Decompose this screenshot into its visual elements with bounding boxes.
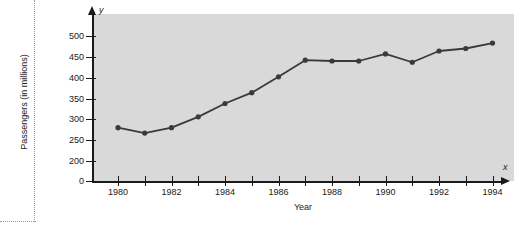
x-tick-mark — [118, 176, 119, 186]
y-tick-mark — [86, 119, 96, 120]
x-tick-label: 1992 — [419, 187, 459, 197]
y-tick-label: 350 — [42, 94, 84, 104]
y-tick-label: 300 — [42, 114, 84, 124]
x-tick-mark — [305, 176, 306, 186]
y-axis-arrow-icon — [88, 6, 96, 15]
y-tick-label: 450 — [42, 52, 84, 62]
plot-area — [93, 14, 514, 181]
x-tick-label: 1982 — [152, 187, 192, 197]
x-tick-mark — [172, 176, 173, 186]
y-tick-label: 0 — [42, 176, 84, 186]
y-tick-mark — [86, 36, 96, 37]
y-tick-mark — [86, 78, 96, 79]
y-tick-mark — [86, 99, 96, 100]
x-tick-mark — [252, 176, 253, 186]
y-tick-mark — [86, 161, 96, 162]
y-tick-label: 250 — [42, 135, 84, 145]
x-tick-mark — [412, 176, 413, 186]
x-tick-mark — [359, 176, 360, 186]
x-tick-mark — [145, 176, 146, 186]
x-tick-label: 1994 — [473, 187, 513, 197]
y-axis-variable-label: y — [99, 5, 104, 15]
x-tick-label: 1984 — [205, 187, 245, 197]
x-axis-title: Year — [93, 202, 513, 212]
x-tick-label: 1986 — [259, 187, 299, 197]
x-tick-mark — [493, 176, 494, 186]
x-tick-mark — [279, 176, 280, 186]
x-tick-label: 1980 — [98, 187, 138, 197]
y-tick-label: 400 — [42, 73, 84, 83]
y-tick-mark — [86, 140, 96, 141]
guide-border-left — [34, 0, 35, 222]
x-axis-arrow-icon — [501, 177, 510, 185]
x-axis-variable-label: x — [503, 162, 508, 172]
x-tick-label: 1990 — [366, 187, 406, 197]
chart-figure: y x 0200250300350400450500 1980198219841… — [0, 0, 529, 235]
y-tick-mark — [86, 181, 96, 182]
x-tick-mark — [198, 176, 199, 186]
x-tick-mark — [332, 176, 333, 186]
x-axis-line — [92, 181, 502, 183]
y-axis-title: Passengers (in millions) — [19, 42, 29, 162]
x-tick-mark — [225, 176, 226, 186]
y-tick-label: 200 — [42, 156, 84, 166]
y-tick-label: 500 — [42, 31, 84, 41]
x-tick-label: 1988 — [312, 187, 352, 197]
guide-border-bottom — [0, 221, 36, 222]
x-tick-mark — [439, 176, 440, 186]
x-tick-mark — [466, 176, 467, 186]
y-tick-mark — [86, 57, 96, 58]
x-tick-mark — [386, 176, 387, 186]
